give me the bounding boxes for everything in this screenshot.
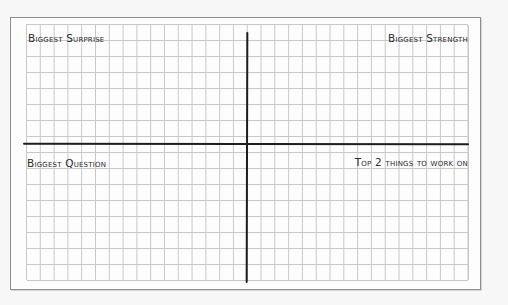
quadrant-label-biggest-surprise: Biggest Surprise — [28, 32, 104, 44]
quadrant-label-top-2-things: Top 2 things to work on — [355, 156, 468, 168]
quadrant-label-biggest-question: Biggest Question — [27, 157, 106, 169]
quadrant-label-biggest-strength: Biggest Strength — [388, 32, 468, 44]
